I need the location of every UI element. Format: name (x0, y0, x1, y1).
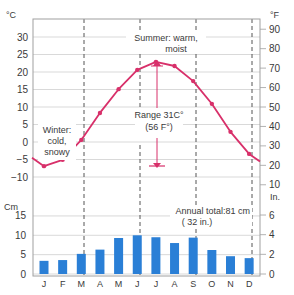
svg-text:O: O (208, 279, 215, 289)
unit-celsius: °C (6, 10, 17, 20)
precip-bar (77, 254, 86, 274)
svg-text:30: 30 (17, 32, 29, 43)
temperature-point (172, 64, 176, 68)
svg-text:A: A (97, 279, 103, 289)
precip-bar (170, 243, 179, 274)
precip-bar (226, 256, 235, 274)
svg-text:60: 60 (269, 82, 281, 93)
svg-text:5: 5 (20, 249, 26, 260)
annual-total-line1: Annual total:81 cm (175, 206, 250, 216)
svg-text:J: J (42, 279, 47, 289)
svg-text:N: N (227, 279, 234, 289)
unit-fahrenheit: °F (270, 10, 280, 20)
winter-annotation-line3: snowy (44, 147, 70, 157)
svg-text:70: 70 (269, 63, 281, 74)
svg-text:M: M (115, 279, 123, 289)
winter-annotation-line2: cold, (47, 136, 66, 146)
svg-text:90: 90 (269, 24, 281, 35)
annual-total-line2: ( 32 in.) (182, 217, 213, 227)
svg-text:15: 15 (17, 84, 29, 95)
svg-text:J: J (154, 279, 159, 289)
svg-text:2: 2 (269, 249, 275, 260)
svg-text:0: 0 (20, 269, 26, 280)
summer-annotation-line1: Summer: warm, (134, 33, 198, 43)
svg-text:20: 20 (17, 67, 29, 78)
svg-text:15: 15 (15, 210, 27, 221)
season-dividers (84, 19, 252, 276)
unit-cm: Cm (4, 202, 18, 212)
svg-text:F: F (60, 279, 66, 289)
temperature-point (79, 138, 83, 142)
temperature-point (228, 130, 232, 134)
svg-text:10: 10 (15, 230, 27, 241)
svg-text:40: 40 (269, 121, 281, 132)
svg-text:10: 10 (269, 179, 281, 190)
svg-text:5: 5 (22, 119, 28, 130)
svg-text:20: 20 (269, 160, 281, 171)
svg-text:M: M (78, 279, 86, 289)
svg-text:0: 0 (22, 137, 28, 148)
temperature-point (191, 79, 195, 83)
temperature-point (98, 111, 102, 115)
precip-bar (151, 237, 160, 274)
svg-text:−5: −5 (17, 154, 29, 165)
right-axis-ticks: 9080706050403020106420 (260, 24, 281, 280)
svg-text:6: 6 (269, 210, 275, 221)
summer-annotation-line2: moist (165, 44, 187, 54)
temperature-point (42, 164, 46, 168)
svg-text:D: D (246, 279, 253, 289)
precip-bar (114, 238, 123, 274)
svg-text:50: 50 (269, 102, 281, 113)
left-axis-ticks: 302520151050−5−10151050 (11, 32, 28, 280)
svg-text:30: 30 (269, 140, 281, 151)
month-labels: JFMAMJJASOND (42, 279, 253, 289)
precip-bar (58, 260, 67, 274)
precip-bar (133, 235, 142, 274)
unit-in: In. (270, 192, 280, 202)
svg-text:0: 0 (269, 269, 275, 280)
svg-text:S: S (190, 279, 196, 289)
precip-bar (95, 250, 104, 274)
svg-text:A: A (172, 279, 178, 289)
temperature-point (116, 87, 120, 91)
precip-bar (40, 261, 49, 274)
range-annotation-line2: (56 F°) (145, 122, 173, 132)
winter-annotation-line1: Winter: (43, 125, 72, 135)
svg-text:4: 4 (269, 229, 275, 240)
svg-text:−10: −10 (11, 172, 28, 183)
svg-text:25: 25 (17, 49, 29, 60)
temperature-point (135, 68, 139, 72)
precip-bar (189, 238, 198, 274)
svg-text:80: 80 (269, 43, 281, 54)
precip-bar (245, 258, 254, 274)
temperature-point (210, 102, 214, 106)
climate-chart: 302520151050−5−10151050 9080706050403020… (0, 0, 294, 295)
range-annotation-line1: Range 31C° (134, 110, 184, 120)
temperature-point (247, 152, 251, 156)
precip-bar (207, 250, 216, 274)
svg-text:10: 10 (17, 102, 29, 113)
svg-text:J: J (135, 279, 140, 289)
